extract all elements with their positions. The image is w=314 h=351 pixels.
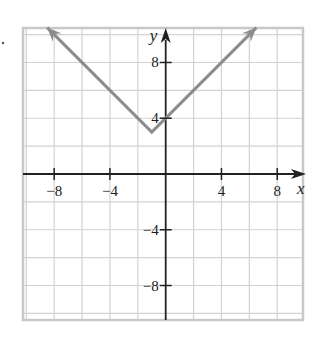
graph: −8−44884−4−8 x y bbox=[0, 0, 314, 351]
x-axis-label: x bbox=[296, 179, 305, 198]
y-tick-label: −8 bbox=[143, 278, 159, 294]
y-axis-label: y bbox=[148, 26, 158, 45]
axes bbox=[23, 28, 306, 320]
stray-dot bbox=[2, 42, 4, 44]
y-tick-label: 4 bbox=[151, 110, 159, 126]
x-tick-label: 8 bbox=[273, 183, 281, 199]
x-tick-label: −8 bbox=[46, 183, 62, 199]
y-tick-label: −4 bbox=[143, 222, 159, 238]
x-tick-label: 4 bbox=[218, 183, 226, 199]
x-tick-label: −4 bbox=[102, 183, 118, 199]
y-tick-label: 8 bbox=[151, 54, 159, 70]
